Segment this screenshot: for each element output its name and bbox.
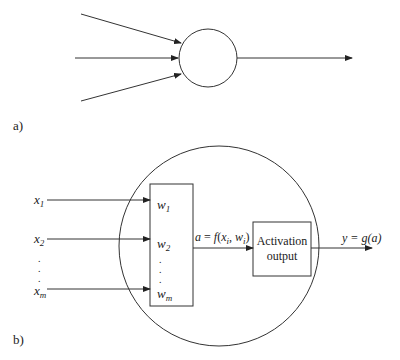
input-ellipsis: ... <box>38 254 41 284</box>
weight-ellipsis: ... <box>159 255 162 285</box>
weight-wm: wm <box>157 287 172 303</box>
input-xm: xm <box>34 284 46 300</box>
output-label: y = g(a) <box>342 232 381 244</box>
panel-b-label: b) <box>13 333 24 346</box>
panel-a-graphic <box>75 14 352 101</box>
input-x2: x2 <box>34 232 44 248</box>
panel-a-label: a) <box>13 119 23 132</box>
input-x1: x1 <box>34 193 44 209</box>
weight-w2: w2 <box>157 237 170 253</box>
neuron-node <box>179 29 237 87</box>
panel-b-graphic <box>47 146 372 346</box>
input-arrow-1 <box>81 14 181 43</box>
activation-text: Activation output <box>253 234 311 264</box>
weight-w1: w1 <box>157 198 170 214</box>
input-arrow-3 <box>81 74 181 101</box>
aggregation-label: a = f(xi, wi) <box>195 231 250 246</box>
neuron-diagram <box>0 0 400 360</box>
